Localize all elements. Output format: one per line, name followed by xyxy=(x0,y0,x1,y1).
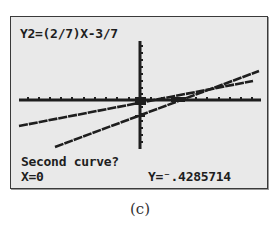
calculator-screen: Y2=(2/7)X-3/7 Second curve? X=0 Y=⁻.4285… xyxy=(10,16,268,189)
curve-y2 xyxy=(55,71,259,147)
function-label: Y2=(2/7)X-3/7 xyxy=(20,27,118,40)
intersection-region xyxy=(171,97,185,102)
x-readout: X=0 xyxy=(21,170,44,183)
trace-cursor xyxy=(135,111,145,121)
y-readout: Y=⁻.4285714 xyxy=(148,170,231,183)
intersect-prompt: Second curve? xyxy=(21,155,119,168)
figure-caption: (c) xyxy=(0,200,280,218)
origin-marker xyxy=(135,97,146,105)
figure: Y2=(2/7)X-3/7 Second curve? X=0 Y=⁻.4285… xyxy=(0,0,280,230)
y-axis-ticks xyxy=(140,46,143,142)
